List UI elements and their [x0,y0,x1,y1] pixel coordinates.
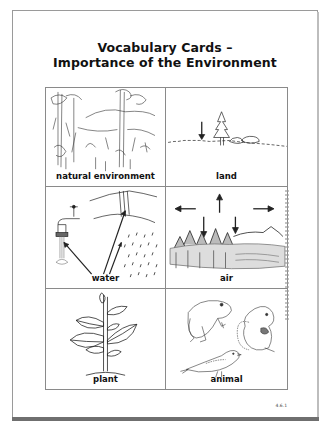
frog-icon [188,301,231,342]
page-number: 4.6.1 [276,403,287,408]
vocabulary-card-grid: natural environment land [45,87,288,390]
title-line-1: Vocabulary Cards – [13,41,317,56]
page-shadow-right [317,12,319,420]
page-shadow-bottom [12,417,319,421]
card-water: water [46,187,166,289]
card-label: air [166,273,287,283]
copyright-vertical-text [285,190,289,320]
card-animal: animal [166,289,287,389]
title-line-2: Importance of the Environment [13,56,317,71]
card-label: plant [46,374,165,384]
card-label: animal [166,374,287,384]
page-title: Vocabulary Cards – Importance of the Env… [13,41,317,70]
card-label: water [46,273,165,283]
squirrel-icon [237,306,274,351]
card-plant: plant [46,289,166,389]
worksheet-page: Vocabulary Cards – Importance of the Env… [12,10,318,418]
card-label: land [166,171,287,181]
card-label: natural environment [46,171,165,181]
card-natural-environment: natural environment [46,88,166,187]
card-land: land [166,88,287,187]
card-air: air [166,187,287,289]
